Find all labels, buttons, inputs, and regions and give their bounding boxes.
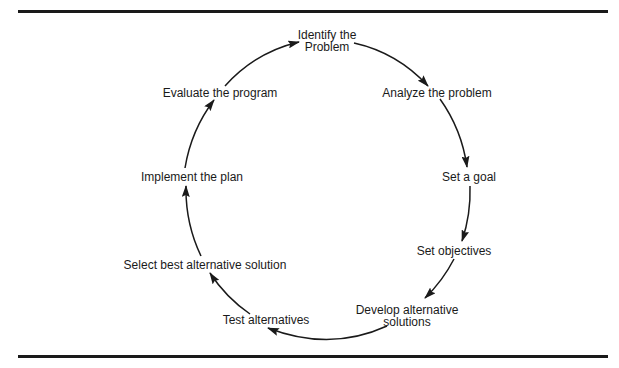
arrow-evaluate-to-identify — [225, 42, 299, 86]
step-identify-problem: Identify the Problem — [298, 29, 357, 53]
step-develop-alternatives: Develop alternative solutions — [356, 304, 459, 328]
arrow-identify-to-analyze — [354, 43, 428, 86]
step-test-alternatives: Test alternatives — [223, 314, 310, 326]
step-label-line2: solutions — [356, 316, 459, 328]
arrow-test-to-select — [210, 273, 250, 314]
cycle-arrows — [0, 0, 619, 368]
step-analyze-problem: Analyze the problem — [382, 87, 491, 99]
step-set-objectives: Set objectives — [417, 245, 492, 257]
arrow-implement-to-evaluate — [185, 100, 214, 168]
arrow-select-to-implement — [186, 186, 201, 256]
arrow-goal-to-objectives — [462, 186, 470, 241]
step-select-best-solution: Select best alternative solution — [124, 259, 287, 271]
step-set-goal: Set a goal — [442, 171, 496, 183]
arrow-objectives-to-develop — [425, 259, 454, 298]
step-implement-plan: Implement the plan — [141, 171, 243, 183]
arrow-analyze-to-goal — [440, 99, 467, 167]
arrow-develop-to-test — [268, 326, 387, 340]
step-evaluate-program: Evaluate the program — [163, 87, 278, 99]
step-label-line2: Problem — [298, 41, 357, 53]
